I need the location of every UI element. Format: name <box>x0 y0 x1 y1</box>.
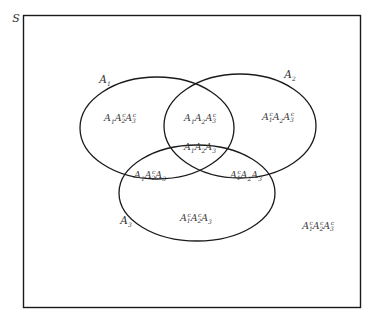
set-term: Ac3 <box>283 111 294 123</box>
set-term: Ac3 <box>205 112 216 124</box>
region-a1c-a2-a3: Ac1A2A3 <box>230 169 262 181</box>
set-term: A2 <box>273 112 284 122</box>
set-term: A3 <box>205 142 216 152</box>
universe-label: S <box>12 13 20 24</box>
region-a1-a2c-a3: A1Ac2A3 <box>134 169 166 181</box>
set-term: Ac3 <box>323 220 334 232</box>
set-term: A2 <box>195 113 206 123</box>
region-a1-a2-a3: A1A2A3 <box>184 142 216 152</box>
set-label-a1: A1 <box>99 74 110 85</box>
venn-diagram-canvas <box>0 0 381 321</box>
set-term: A1 <box>184 113 195 123</box>
set-label-a2: A2 <box>284 69 295 80</box>
set-term: Ac1 <box>180 212 191 224</box>
set-term: A1 <box>184 142 195 152</box>
region-a1c-a2c-a3: Ac1Ac2A3 <box>180 212 212 224</box>
region-a1c-a2c-a3c: Ac1Ac2Ac3 <box>302 220 334 232</box>
set-term: A1 <box>134 170 145 180</box>
set-a3-ellipse <box>119 145 275 241</box>
universe-rectangle <box>24 16 361 308</box>
set-term: A2 <box>241 170 252 180</box>
set-term: Ac1 <box>262 111 273 123</box>
set-term: Ac3 <box>125 112 136 124</box>
set-term: A3 <box>201 213 212 223</box>
set-term: Ac2 <box>115 112 126 124</box>
set-term: Ac2 <box>313 220 324 232</box>
set-term: Ac1 <box>230 169 241 181</box>
set-term: Ac2 <box>145 169 156 181</box>
region-a1-a2-a3c: A1A2Ac3 <box>184 112 216 124</box>
set-term: A3 <box>251 170 262 180</box>
set-a2-ellipse <box>164 74 316 178</box>
set-term: A1 <box>104 113 115 123</box>
set-term: Ac1 <box>302 220 313 232</box>
region-a1-a2c-a3c: A1Ac2Ac3 <box>104 112 136 124</box>
set-a1-ellipse <box>80 77 234 179</box>
set-term: A3 <box>155 170 166 180</box>
set-term: Ac2 <box>191 212 202 224</box>
set-term: A2 <box>195 142 206 152</box>
region-a1c-a2-a3c: Ac1A2Ac3 <box>262 111 294 123</box>
set-label-a3: A3 <box>120 215 131 226</box>
